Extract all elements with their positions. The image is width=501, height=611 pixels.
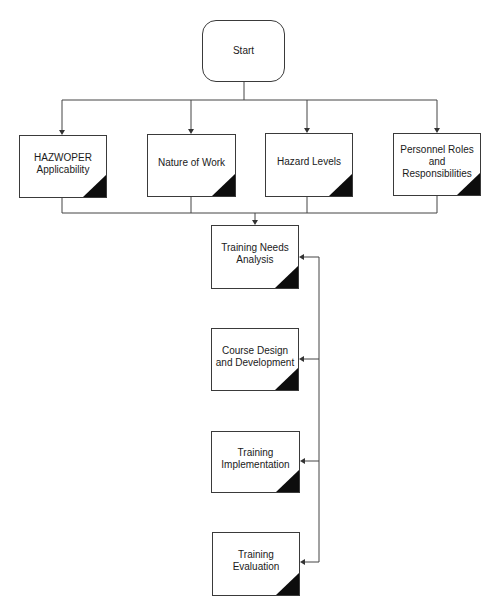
personnel-roles-label: Personnel Roles and Responsibilities [398,144,475,180]
corner-marker-icon [83,175,106,197]
training-needs-analysis-label: Training Needs Analysis [219,242,290,266]
corner-marker-icon [276,573,299,595]
corner-marker-icon [212,174,235,196]
personnel-roles-node: Personnel Roles and Responsibilities [393,133,481,196]
training-implementation-label: Training Implementation [219,447,291,471]
training-evaluation-label: Training Evaluation [231,549,282,573]
nature-of-work-node: Nature of Work [147,134,236,197]
corner-marker-icon [276,470,299,492]
training-needs-analysis-node: Training Needs Analysis [211,225,299,289]
connector-lines [0,0,501,611]
hazard-levels-label: Hazard Levels [275,156,343,168]
training-evaluation-node: Training Evaluation [212,532,300,596]
start-label: Start [231,45,256,57]
course-design-label: Course Design and Development [214,345,296,369]
course-design-node: Course Design and Development [211,328,299,391]
hazard-levels-node: Hazard Levels [265,133,353,197]
hazwoper-applicability-label: HAZWOPER Applicability [32,152,94,176]
corner-marker-icon [329,174,352,196]
corner-marker-icon [275,266,298,288]
corner-marker-icon [275,368,298,390]
nature-of-work-label: Nature of Work [156,157,227,169]
start-node: Start [202,20,285,82]
hazwoper-applicability-node: HAZWOPER Applicability [19,135,107,198]
training-implementation-node: Training Implementation [211,431,300,493]
training-flowchart: Start HAZWOPER Applicability Nature of W… [0,0,501,611]
